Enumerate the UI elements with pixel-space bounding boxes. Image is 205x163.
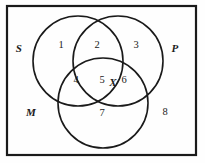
venn-diagram-figure: S P M 1 2 3 4 5 6 7 8 X: [0, 0, 205, 163]
region-label-6: 6: [121, 75, 126, 86]
circle-s: [33, 16, 123, 106]
x-mark-label: X: [109, 77, 116, 88]
region-label-8: 8: [162, 107, 167, 118]
region-label-1: 1: [58, 40, 63, 51]
region-label-7: 7: [99, 108, 104, 119]
set-label-p: P: [172, 43, 179, 54]
set-label-m: M: [26, 107, 36, 118]
region-label-2: 2: [94, 40, 99, 51]
region-label-3: 3: [133, 40, 138, 51]
set-label-s: S: [16, 43, 22, 54]
region-label-4: 4: [73, 75, 78, 86]
region-label-5: 5: [99, 75, 104, 86]
